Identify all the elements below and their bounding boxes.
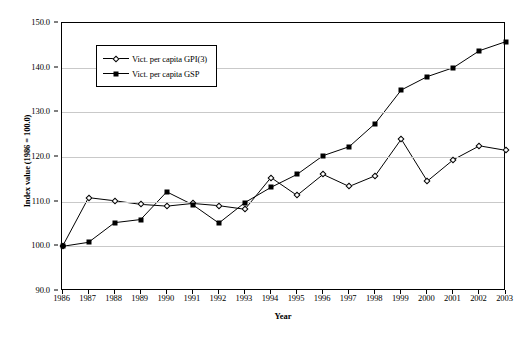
y-tick-mark <box>54 245 58 246</box>
x-axis-ticks: 1986198719881989199019911992199319941995… <box>61 293 505 309</box>
x-tick-label: 1994 <box>262 293 279 303</box>
x-tick-label: 2000 <box>418 293 435 303</box>
data-point-marker <box>190 202 195 207</box>
data-point-marker <box>268 185 273 190</box>
x-tick-label: 1991 <box>183 293 200 303</box>
x-tick-mark <box>505 290 506 294</box>
gridline <box>62 202 504 203</box>
x-tick-mark <box>374 290 375 294</box>
legend-item-gsp: Vict. per capita GSP <box>103 66 207 81</box>
x-tick-label: 1988 <box>105 293 122 303</box>
y-axis-ticks: 90.0100.0110.0120.0130.0140.0150.0 <box>0 22 58 290</box>
x-tick-mark <box>348 290 349 294</box>
x-tick-mark <box>140 290 141 294</box>
x-tick-mark <box>88 290 89 294</box>
filled-square-marker-icon <box>103 68 129 79</box>
chart-legend: Vict. per capita GPI(3) Vict. per capita… <box>96 45 217 87</box>
y-tick-label: 90.0 <box>36 285 50 295</box>
data-point-marker <box>138 217 143 222</box>
data-point-marker <box>216 221 221 226</box>
y-tick-label: 130.0 <box>31 106 50 116</box>
data-point-marker <box>451 65 456 70</box>
x-tick-mark <box>62 290 63 294</box>
data-point-marker <box>321 153 326 158</box>
data-point-marker <box>399 88 404 93</box>
gridline <box>62 157 504 158</box>
x-tick-label: 1989 <box>131 293 148 303</box>
x-tick-label: 1996 <box>314 293 331 303</box>
x-tick-label: 1990 <box>157 293 174 303</box>
gridline <box>62 112 504 113</box>
data-point-marker <box>164 189 169 194</box>
legend-label-gpi: Vict. per capita GPI(3) <box>132 54 207 64</box>
y-tick-mark <box>54 156 58 157</box>
x-tick-mark <box>166 290 167 294</box>
data-point-marker <box>295 172 300 177</box>
x-tick-label: 1998 <box>366 293 383 303</box>
data-point-marker <box>112 220 117 225</box>
x-tick-mark <box>296 290 297 294</box>
data-point-marker <box>425 74 430 79</box>
data-point-marker <box>347 144 352 149</box>
x-tick-mark <box>400 290 401 294</box>
gridline <box>62 246 504 247</box>
x-tick-mark <box>478 290 479 294</box>
x-tick-mark <box>218 290 219 294</box>
y-tick-label: 100.0 <box>31 240 50 250</box>
x-tick-label: 2003 <box>496 293 513 303</box>
y-tick-label: 120.0 <box>31 151 50 161</box>
y-tick-mark <box>54 22 58 23</box>
x-axis-title: Year <box>61 311 505 321</box>
x-tick-label: 2002 <box>470 293 487 303</box>
data-point-marker <box>86 240 91 245</box>
x-tick-label: 1993 <box>236 293 253 303</box>
y-tick-label: 110.0 <box>32 196 50 206</box>
data-point-marker <box>242 200 247 205</box>
x-tick-label: 1986 <box>53 293 70 303</box>
data-point-marker <box>60 244 65 249</box>
x-tick-label: 1987 <box>79 293 96 303</box>
x-tick-label: 1997 <box>340 293 357 303</box>
y-tick-label: 140.0 <box>31 62 50 72</box>
y-tick-mark <box>54 200 58 201</box>
chart-figure: Index value (1986 = 100.0) 90.0100.0110.… <box>0 0 521 344</box>
x-tick-label: 2001 <box>444 293 461 303</box>
y-tick-mark <box>54 290 58 291</box>
data-point-marker <box>503 39 508 44</box>
data-point-marker <box>373 121 378 126</box>
data-point-marker <box>477 48 482 53</box>
x-tick-label: 1999 <box>392 293 409 303</box>
x-tick-mark <box>270 290 271 294</box>
x-tick-mark <box>322 290 323 294</box>
x-tick-mark <box>244 290 245 294</box>
open-diamond-marker-icon <box>103 53 129 64</box>
legend-label-gsp: Vict. per capita GSP <box>132 69 199 79</box>
x-tick-mark <box>114 290 115 294</box>
y-tick-label: 150.0 <box>31 17 50 27</box>
x-tick-mark <box>192 290 193 294</box>
y-tick-mark <box>54 111 58 112</box>
legend-item-gpi: Vict. per capita GPI(3) <box>103 51 207 66</box>
y-tick-mark <box>54 66 58 67</box>
x-tick-label: 1992 <box>210 293 227 303</box>
x-tick-label: 1995 <box>288 293 305 303</box>
x-tick-mark <box>426 290 427 294</box>
series-line <box>63 139 506 246</box>
x-tick-mark <box>452 290 453 294</box>
